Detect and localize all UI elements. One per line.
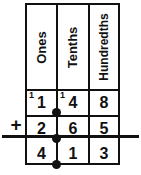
table-row: 4 1 3 bbox=[27, 143, 118, 165]
carry-mark-tenths: 1 bbox=[60, 91, 65, 100]
digit-cell-addend1-hundredths: 8 bbox=[90, 91, 118, 115]
column-header-tenths: Tenths bbox=[58, 5, 88, 89]
digit-addend1-ones: 1 bbox=[37, 95, 46, 111]
digit-addend1-tenths: 4 bbox=[69, 95, 78, 111]
column-header-row: Ones Tenths Hundredths bbox=[27, 5, 118, 89]
place-value-table: Ones Tenths Hundredths 1 1 1 4 8 bbox=[25, 3, 120, 165]
digit-sum-hundredths: 3 bbox=[100, 146, 109, 162]
column-header-ones-label: Ones bbox=[35, 31, 48, 64]
column-header-ones: Ones bbox=[27, 5, 56, 89]
digit-sum-tenths: 1 bbox=[69, 146, 78, 162]
addition-worksheet: Ones Tenths Hundredths 1 1 1 4 8 bbox=[0, 0, 141, 175]
table-row: 1 1 1 4 8 bbox=[27, 91, 118, 115]
digit-cell-sum-hundredths: 3 bbox=[90, 143, 118, 165]
decimal-point-icon bbox=[52, 160, 61, 169]
carry-mark-ones: 1 bbox=[29, 91, 34, 100]
digit-cell-sum-tenths: 1 bbox=[58, 143, 88, 165]
plus-operator: + bbox=[8, 117, 24, 133]
column-header-tenths-label: Tenths bbox=[67, 26, 80, 68]
digit-sum-ones: 4 bbox=[37, 146, 46, 162]
sum-line bbox=[2, 135, 139, 138]
column-header-hundredths: Hundredths bbox=[90, 5, 118, 89]
decimal-point-icon bbox=[52, 108, 61, 117]
column-header-hundredths-label: Hundredths bbox=[98, 13, 110, 80]
digit-addend1-hundredths: 8 bbox=[100, 95, 109, 111]
digit-cell-addend1-tenths: 1 4 bbox=[58, 91, 88, 115]
